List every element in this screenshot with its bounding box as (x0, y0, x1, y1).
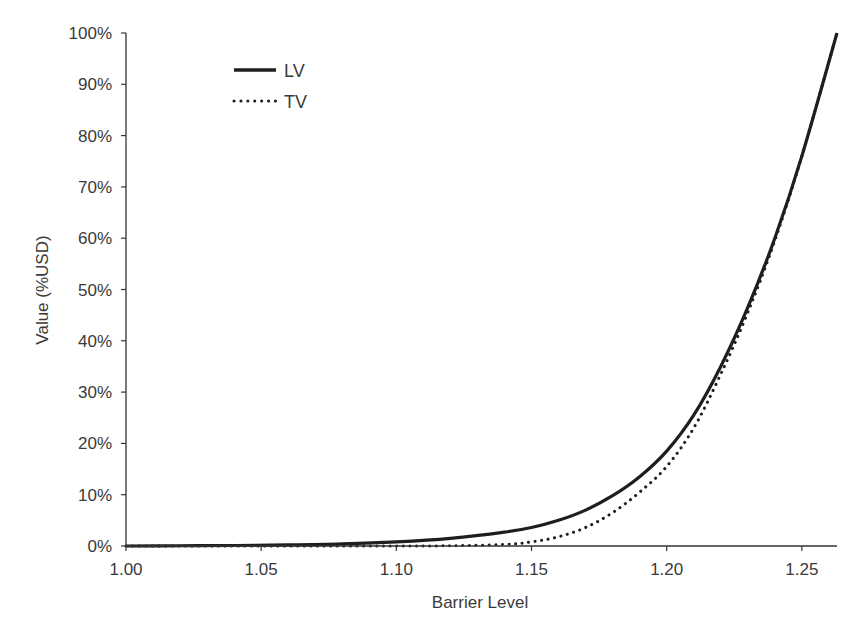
x-tick-label: 1.20 (650, 560, 683, 579)
x-axis-label: Barrier Level (432, 593, 528, 612)
legend-item-lv: LV (234, 61, 305, 81)
y-axis-label: Value (%USD) (33, 235, 52, 344)
y-tick-label: 40% (78, 332, 112, 351)
y-tick-label: 80% (78, 127, 112, 146)
y-tick-label: 50% (78, 281, 112, 300)
x-tick-label: 1.10 (380, 560, 413, 579)
y-tick-label: 10% (78, 486, 112, 505)
x-tick-label: 1.25 (785, 560, 818, 579)
plot-lines (126, 33, 837, 546)
y-tick-label: 100% (69, 24, 112, 43)
series-line-lv (126, 33, 837, 546)
axes: 0%10%20%30%40%50%60%70%80%90%100%1.001.0… (69, 24, 837, 579)
line-chart: 0%10%20%30%40%50%60%70%80%90%100%1.001.0… (0, 0, 861, 627)
x-tick-label: 1.05 (245, 560, 278, 579)
y-tick-label: 20% (78, 434, 112, 453)
y-tick-label: 90% (78, 75, 112, 94)
y-tick-label: 0% (87, 537, 112, 556)
legend-label: LV (284, 61, 305, 81)
y-tick-label: 60% (78, 229, 112, 248)
legend: LVTV (234, 61, 307, 112)
legend-label: TV (284, 92, 307, 112)
y-tick-label: 30% (78, 383, 112, 402)
x-tick-label: 1.15 (515, 560, 548, 579)
legend-item-tv: TV (234, 92, 307, 112)
x-tick-label: 1.00 (109, 560, 142, 579)
y-tick-label: 70% (78, 178, 112, 197)
series-line-tv (126, 33, 837, 546)
